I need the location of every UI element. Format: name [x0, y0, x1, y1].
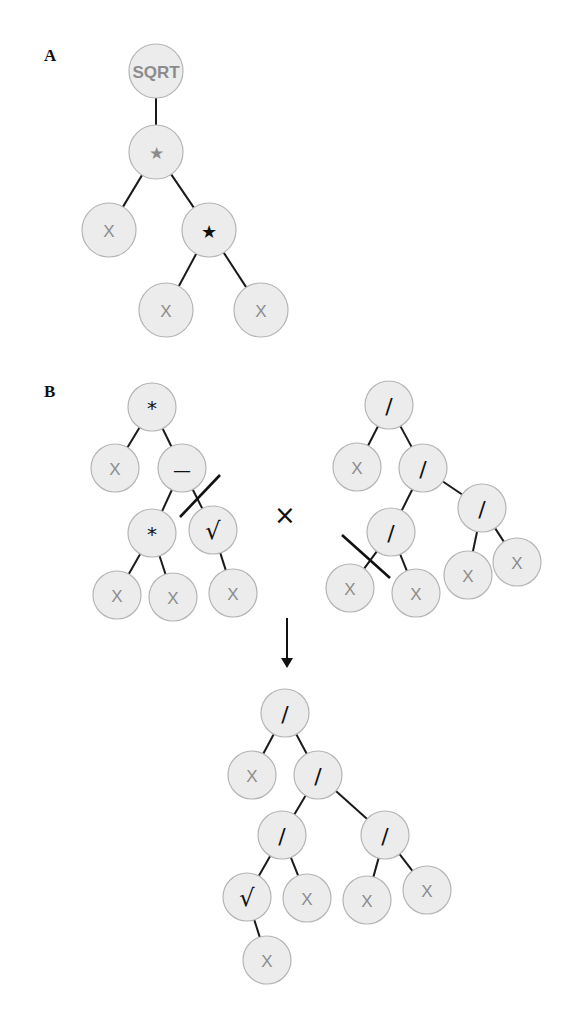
node-label: X: [160, 302, 171, 321]
tree-edge: [179, 254, 196, 286]
genetic-programming-diagram: A B SQRT★X★XX *X—*√XXX × /X///XXXX /X///…: [0, 0, 587, 1028]
node-label: /: [278, 824, 286, 849]
tree-node: ★: [182, 203, 236, 257]
tree-node: X: [149, 573, 197, 621]
tree-a-mutation: SQRT★X★XX: [82, 44, 288, 337]
node-label: X: [511, 554, 522, 573]
tree-edge: [259, 856, 270, 876]
tree-node: X: [228, 751, 276, 799]
node-label: /: [387, 521, 395, 546]
down-arrow-icon: [281, 618, 293, 668]
tree-node: /: [361, 811, 409, 859]
tree-edge: [400, 554, 407, 571]
tree-edge: [162, 490, 172, 511]
tree-node: X: [403, 866, 451, 914]
tree-node: X: [333, 443, 381, 491]
node-label: X: [261, 952, 272, 971]
tree-edge: [127, 428, 139, 448]
tree-node: /: [294, 751, 342, 799]
node-label: X: [109, 460, 120, 479]
node-label: /: [385, 394, 393, 419]
tree-node: X: [283, 874, 331, 922]
tree-node: X: [93, 571, 141, 619]
node-label: X: [111, 587, 122, 606]
tree-node: /: [458, 484, 506, 532]
tree-b-offspring: /X///√XXXX: [223, 689, 451, 984]
node-label: /: [314, 764, 322, 789]
node-label: ★: [201, 221, 217, 242]
node-label: X: [410, 585, 421, 604]
tree-edge: [443, 481, 462, 494]
tree-b-parent-2: /X///XXXX: [326, 381, 541, 617]
tree-node: *: [128, 383, 176, 431]
tree-edge: [123, 175, 142, 207]
tree-node: /: [365, 381, 413, 429]
crossover-symbol: ×: [274, 500, 296, 530]
tree-node: X: [343, 876, 391, 924]
tree-edge: [159, 556, 165, 574]
tree-edge: [373, 858, 378, 877]
tree-edge: [220, 553, 225, 570]
node-label: X: [255, 302, 266, 321]
tree-node: X: [139, 283, 193, 337]
tree-edge: [254, 920, 259, 937]
tree-edge: [473, 531, 477, 551]
tree-node: X: [82, 203, 136, 257]
node-label: /: [478, 497, 486, 522]
tree-node: X: [493, 538, 541, 586]
node-label: *: [147, 522, 157, 546]
node-label: X: [421, 882, 432, 901]
node-label: /: [419, 457, 427, 482]
tree-node: X: [326, 564, 374, 612]
tree-edge: [129, 554, 140, 574]
tree-node: —: [158, 444, 206, 492]
tree-edge: [368, 426, 378, 445]
node-label: X: [361, 892, 372, 911]
tree-edge: [263, 734, 273, 754]
node-label: X: [167, 589, 178, 608]
tree-edge: [291, 857, 298, 875]
tree-b-parent-1: *X—*√XXX: [91, 383, 257, 621]
node-label: √: [205, 517, 221, 545]
tree-edge: [296, 734, 306, 754]
node-label: X: [344, 580, 355, 599]
tree-edge: [163, 429, 172, 447]
tree-node: X: [392, 569, 440, 617]
node-label: *: [147, 396, 157, 420]
tree-node: /: [399, 444, 447, 492]
tree-node: /: [258, 811, 306, 859]
tree-node: /: [367, 508, 415, 556]
node-label: —: [173, 459, 191, 480]
tree-node: SQRT: [129, 44, 183, 98]
tree-edge: [224, 253, 247, 288]
node-label: /: [281, 702, 289, 727]
panel-label-a: A: [44, 46, 57, 65]
tree-node: √: [223, 873, 271, 921]
tree-node: X: [444, 551, 492, 599]
node-label: X: [246, 767, 257, 786]
node-label: X: [462, 567, 473, 586]
node-label: SQRT: [132, 63, 180, 82]
tree-node: *: [128, 509, 176, 557]
tree-node: ★: [129, 125, 183, 179]
node-label: √: [239, 884, 255, 912]
tree-node: /: [261, 689, 309, 737]
tree-node: X: [234, 283, 288, 337]
node-label: X: [103, 222, 114, 241]
tree-edge: [171, 174, 194, 207]
tree-edge: [400, 854, 413, 871]
tree-edge: [402, 489, 413, 510]
tree-node: X: [209, 569, 257, 617]
node-label: /: [381, 824, 389, 849]
node-label: ★: [149, 144, 164, 163]
node-label: X: [227, 585, 238, 604]
node-label: X: [351, 459, 362, 478]
panel-label-b: B: [44, 382, 55, 401]
tree-node: √: [189, 506, 237, 554]
tree-edge: [336, 791, 367, 819]
tree-node: X: [91, 444, 139, 492]
tree-edge: [400, 426, 411, 447]
tree-edge: [294, 796, 305, 815]
tree-edge: [495, 528, 504, 542]
tree-node: X: [243, 936, 291, 984]
